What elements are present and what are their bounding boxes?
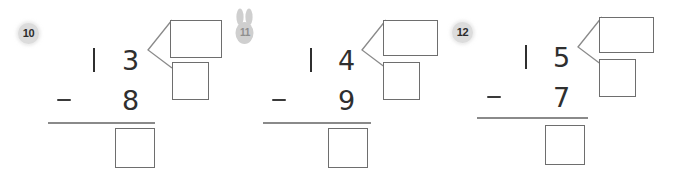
problem-badge-10: 10 (18, 23, 39, 44)
problem-badge-12: 12 (452, 22, 473, 43)
decomposition-box-top-2[interactable] (383, 20, 438, 56)
bunny-icon: 11 (230, 8, 260, 46)
answer-rule-3 (477, 117, 588, 119)
decomposition-box-bottom-3[interactable] (599, 59, 636, 97)
minus-operator-2 (272, 99, 286, 101)
answer-rule-1 (48, 122, 155, 124)
minus-operator-3 (487, 96, 501, 98)
minus-operator-1 (57, 99, 71, 101)
problem-badge-11: 11 (230, 27, 260, 38)
minuend-ones-digit-1: 3 (122, 47, 139, 74)
subtrahend-digit-1: 8 (122, 87, 139, 114)
decomposition-box-top-1[interactable] (170, 20, 222, 58)
subtrahend-digit-2: 9 (338, 87, 355, 114)
answer-rule-2 (263, 122, 371, 124)
worksheet-canvas: 10 3 8 11 4 9 12 5 7 (0, 0, 684, 178)
decomposition-box-top-3[interactable] (599, 17, 654, 53)
decomposition-box-bottom-2[interactable] (383, 62, 420, 100)
decomposition-box-bottom-1[interactable] (172, 62, 209, 100)
answer-box-3[interactable] (545, 125, 585, 165)
minuend-tens-digit-3 (525, 45, 527, 69)
minuend-ones-digit-2: 4 (338, 47, 355, 74)
minuend-tens-digit-2 (310, 48, 312, 72)
subtrahend-digit-3: 7 (553, 84, 570, 111)
answer-box-2[interactable] (328, 128, 368, 168)
minuend-ones-digit-3: 5 (553, 44, 570, 71)
minuend-tens-digit-1 (93, 48, 95, 72)
answer-box-1[interactable] (115, 128, 155, 168)
